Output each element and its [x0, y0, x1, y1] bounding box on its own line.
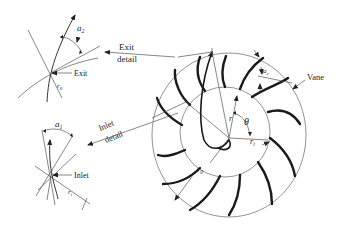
inlet-detail-label-2: detail	[103, 128, 125, 145]
vane-11	[198, 57, 205, 91]
r0-line	[210, 138, 229, 163]
impeller: r θ ri r0 ac Vane	[152, 48, 324, 217]
vane-2	[268, 111, 300, 124]
alpha2-arrow	[77, 38, 78, 42]
vane-12	[222, 56, 226, 87]
vane-6	[190, 176, 220, 210]
radial-line-top	[212, 52, 229, 138]
vane-8	[158, 150, 185, 156]
impeller-diagram: a2 Exit r0 Exit detail a1 Inlet ri Inlet…	[0, 0, 341, 225]
exit-outer-arc	[18, 58, 98, 98]
vane-7	[163, 168, 200, 184]
ac-arrow-top	[261, 67, 262, 74]
alpha1-arc	[43, 129, 73, 137]
exit-point-label: Exit	[74, 69, 88, 78]
vane-9	[157, 98, 182, 125]
exit-leader-arrow	[105, 52, 175, 57]
inlet-detail-leader: Inlet detail	[88, 113, 178, 145]
ac-label: ac	[263, 67, 270, 76]
vane-13	[240, 58, 263, 89]
exit-width-arrow	[254, 50, 259, 57]
inner-circle	[180, 87, 270, 177]
inlet-detail: a1 Inlet ri	[35, 119, 90, 210]
theta-baseline	[229, 138, 268, 140]
alpha2-label: a2	[77, 23, 85, 34]
exit-detail-label-2: detail	[117, 54, 137, 64]
vane-4	[258, 162, 272, 204]
vane-label: Vane	[307, 72, 324, 82]
exit-detail-label-1: Exit	[119, 42, 134, 52]
radial-line-left	[186, 102, 229, 138]
exit-detail: a2 Exit r0	[18, 15, 100, 102]
exit-detail-leader: Exit detail	[105, 42, 175, 64]
vane-leader-arrow	[293, 80, 305, 89]
ri-inlet-label: ri	[68, 188, 73, 197]
inlet-point-label: Inlet	[74, 171, 89, 180]
alpha1-label: a1	[55, 119, 63, 130]
vane-5	[229, 175, 240, 215]
theta-label: θ	[244, 116, 249, 127]
vane-3	[270, 138, 295, 176]
inlet-vane-curve	[50, 140, 58, 199]
vane-10	[175, 70, 190, 105]
ri-label: ri	[250, 137, 255, 147]
r0-label: r0	[197, 165, 203, 175]
r0-exit-label: r0	[57, 82, 63, 91]
